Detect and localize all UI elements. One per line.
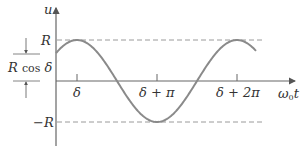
minus-R-level-label: −R xyxy=(33,116,54,129)
tick-label-delta: δ xyxy=(73,86,81,99)
x-axis-label: ω0t xyxy=(278,87,299,102)
R-level-label: R xyxy=(41,34,51,47)
cosine-phase-diagram: u R −R R cos δ δ δ + π δ + 2π ω0t xyxy=(0,0,305,154)
tick-label-delta-plus-pi: δ + π xyxy=(139,86,175,99)
y-axis-label: u xyxy=(44,3,52,16)
tick-label-delta-plus-2pi: δ + 2π xyxy=(216,86,260,99)
R-cos-delta-label: R cos δ xyxy=(8,61,52,74)
diagram-graphics xyxy=(0,0,305,154)
